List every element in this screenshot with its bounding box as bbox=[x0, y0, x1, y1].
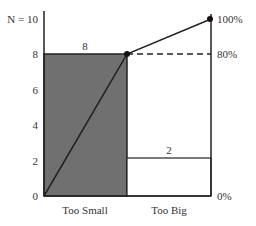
right-tick-0pct: 0% bbox=[217, 190, 232, 202]
left-tick-8: 8 bbox=[33, 48, 39, 60]
cumulative-point-100pct bbox=[207, 16, 213, 22]
left-tick-6: 6 bbox=[33, 84, 39, 96]
pareto-chart: N = 10 8 6 4 2 0 100% 80% 0% 8 2 Too Sma… bbox=[0, 0, 256, 226]
cumulative-point-80pct bbox=[124, 51, 130, 57]
right-tick-80pct: 80% bbox=[217, 48, 237, 60]
bar-label-too-small: 8 bbox=[82, 40, 88, 52]
left-axis-top-label: N = 10 bbox=[7, 13, 38, 25]
bar-too-big bbox=[127, 158, 211, 196]
left-tick-4: 4 bbox=[33, 119, 39, 131]
left-tick-2: 2 bbox=[33, 155, 39, 167]
right-tick-100pct: 100% bbox=[217, 13, 243, 25]
left-tick-0: 0 bbox=[33, 190, 39, 202]
category-too-small: Too Small bbox=[62, 204, 107, 216]
category-too-big: Too Big bbox=[151, 204, 187, 216]
bar-label-too-big: 2 bbox=[166, 144, 172, 156]
